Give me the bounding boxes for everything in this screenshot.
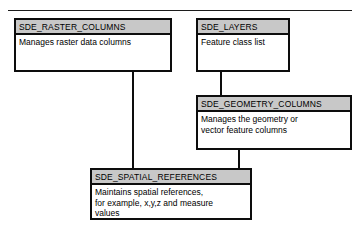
entity-description-line: values <box>95 208 247 219</box>
entity-description-sde-spatial-references: Maintains spatial references,for example… <box>92 185 250 219</box>
entity-description-sde-raster-columns: Manages raster data columns <box>16 35 170 48</box>
entity-description-line: Manages the geometry or <box>201 114 347 125</box>
entity-title-sde-layers: SDE_LAYERS <box>198 20 288 35</box>
connector-geometry-to-spatial <box>238 150 240 168</box>
entity-title-sde-spatial-references: SDE_SPATIAL_REFERENCES <box>92 170 250 185</box>
entity-description-line: Maintains spatial references, <box>95 187 247 198</box>
entity-box-sde-spatial-references[interactable]: SDE_SPATIAL_REFERENCESMaintains spatial … <box>90 168 252 220</box>
entity-box-sde-layers[interactable]: SDE_LAYERSFeature class list <box>196 18 290 72</box>
entity-title-sde-raster-columns: SDE_RASTER_COLUMNS <box>16 20 170 35</box>
entity-description-sde-layers: Feature class list <box>198 35 288 48</box>
top-divider-rule <box>8 10 352 11</box>
entity-title-sde-geometry-columns: SDE_GEOMETRY_COLUMNS <box>198 97 350 112</box>
entity-description-line: Manages raster data columns <box>19 37 167 48</box>
entity-description-line: Feature class list <box>201 37 285 48</box>
connector-layers-to-geometry <box>220 72 222 95</box>
diagram-canvas: SDE_RASTER_COLUMNSManages raster data co… <box>0 0 360 228</box>
entity-description-line: for example, x,y,z and measure <box>95 198 247 209</box>
entity-box-sde-geometry-columns[interactable]: SDE_GEOMETRY_COLUMNSManages the geometry… <box>196 95 352 150</box>
connector-raster-to-spatial <box>132 72 134 168</box>
entity-description-line: vector feature columns <box>201 125 347 136</box>
entity-box-sde-raster-columns[interactable]: SDE_RASTER_COLUMNSManages raster data co… <box>14 18 172 72</box>
entity-description-sde-geometry-columns: Manages the geometry orvector feature co… <box>198 112 350 135</box>
